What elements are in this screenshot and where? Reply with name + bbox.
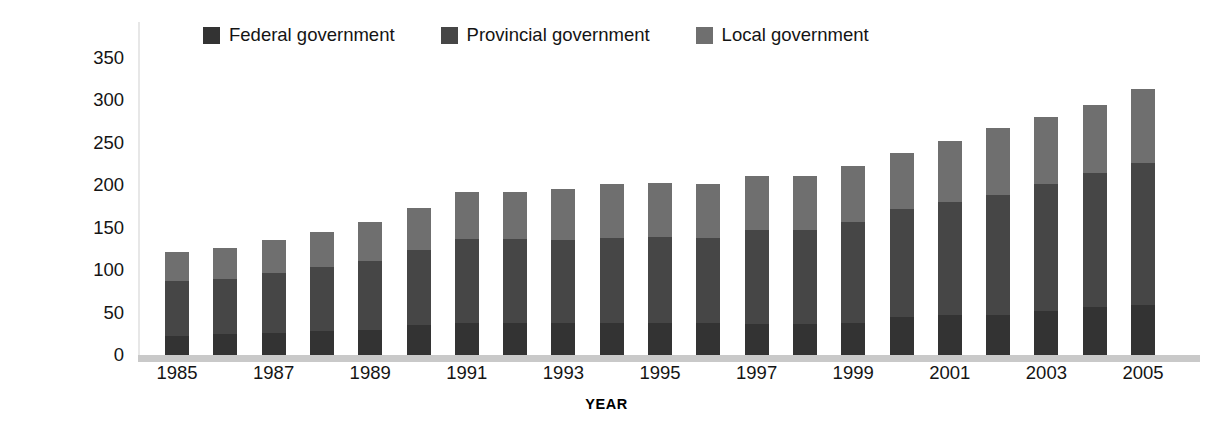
bar-segment-provincial xyxy=(745,230,769,324)
bar-segment-local xyxy=(358,222,382,261)
bar-1985 xyxy=(165,251,189,355)
bar-segment-federal xyxy=(358,330,382,355)
y-axis-tick-labels: 050100150200250300350 xyxy=(0,0,132,380)
bar-segment-federal xyxy=(165,336,189,355)
x-axis-line xyxy=(138,355,1200,362)
bar-2003 xyxy=(1034,117,1058,355)
x-tick-2003: 2003 xyxy=(1026,362,1067,384)
x-tick-1993: 1993 xyxy=(543,362,584,384)
bar-1998 xyxy=(793,176,817,355)
bar-2004 xyxy=(1083,105,1107,355)
bar-segment-provincial xyxy=(1131,163,1155,305)
bar-segment-federal xyxy=(262,333,286,355)
bar-segment-provincial xyxy=(648,237,672,323)
bar-segment-local xyxy=(745,176,769,230)
bar-segment-federal xyxy=(890,317,914,355)
bar-segment-provincial xyxy=(1034,184,1058,310)
bar-segment-local xyxy=(1034,117,1058,185)
bar-1986 xyxy=(213,248,237,355)
plot-area xyxy=(138,22,1200,356)
bar-1992 xyxy=(503,192,527,355)
bar-segment-federal xyxy=(1083,307,1107,355)
bar-segment-provincial xyxy=(310,267,334,331)
bar-2005 xyxy=(1131,89,1155,355)
bar-segment-local xyxy=(1131,89,1155,164)
bar-segment-provincial xyxy=(600,238,624,323)
x-axis-title: YEAR xyxy=(0,396,1213,412)
bar-segment-federal xyxy=(503,323,527,355)
x-tick-2001: 2001 xyxy=(929,362,970,384)
bar-segment-local xyxy=(213,248,237,279)
bar-segment-provincial xyxy=(551,240,575,322)
bar-segment-provincial xyxy=(165,281,189,336)
y-tick-250: 250 xyxy=(93,132,124,154)
bar-segment-provincial xyxy=(213,279,237,334)
bar-segment-provincial xyxy=(455,239,479,323)
bar-segment-provincial xyxy=(841,222,865,323)
bar-segment-provincial xyxy=(358,261,382,331)
bar-1991 xyxy=(455,192,479,355)
bar-segment-local xyxy=(262,240,286,273)
x-tick-1991: 1991 xyxy=(446,362,487,384)
bar-2000 xyxy=(890,153,914,355)
x-axis-tick-labels: 1985198719891991199319951997199920012003… xyxy=(138,362,1200,388)
bar-1996 xyxy=(696,184,720,355)
bar-segment-provincial xyxy=(938,202,962,315)
bar-segment-local xyxy=(793,176,817,230)
bar-segment-local xyxy=(165,252,189,282)
bar-1993 xyxy=(551,189,575,355)
y-tick-100: 100 xyxy=(93,259,124,281)
bar-segment-federal xyxy=(1131,305,1155,355)
chart-figure: CURRENT EXPENDITURE ON GOODS AND SERVICE… xyxy=(0,0,1213,448)
bar-segment-local xyxy=(696,184,720,237)
bar-segment-federal xyxy=(407,325,431,355)
bar-segment-federal xyxy=(696,323,720,355)
bar-segment-federal xyxy=(551,323,575,355)
bar-segment-provincial xyxy=(407,250,431,326)
x-tick-2005: 2005 xyxy=(1122,362,1163,384)
y-tick-200: 200 xyxy=(93,174,124,196)
bar-1997 xyxy=(745,176,769,355)
bar-segment-local xyxy=(841,166,865,222)
bar-segment-provincial xyxy=(503,239,527,323)
bar-1989 xyxy=(358,222,382,355)
bar-2002 xyxy=(986,128,1010,355)
bar-segment-provincial xyxy=(793,230,817,323)
x-tick-1987: 1987 xyxy=(253,362,294,384)
bar-segment-federal xyxy=(938,315,962,355)
bar-segment-federal xyxy=(600,323,624,355)
bar-segment-provincial xyxy=(262,273,286,333)
bar-segment-local xyxy=(890,153,914,209)
bar-segment-federal xyxy=(310,331,334,355)
bar-segment-federal xyxy=(213,334,237,355)
y-tick-300: 300 xyxy=(93,89,124,111)
bar-1994 xyxy=(600,184,624,355)
x-tick-1985: 1985 xyxy=(156,362,197,384)
bar-1990 xyxy=(407,208,431,355)
bar-segment-federal xyxy=(1034,311,1058,355)
bar-segment-provincial xyxy=(696,238,720,323)
x-tick-1997: 1997 xyxy=(736,362,777,384)
bar-segment-federal xyxy=(793,324,817,355)
bar-segment-local xyxy=(648,183,672,237)
bar-segment-federal xyxy=(648,323,672,355)
bar-segment-local xyxy=(986,128,1010,194)
bar-segment-provincial xyxy=(986,195,1010,315)
bar-segment-local xyxy=(503,192,527,239)
bar-segment-provincial xyxy=(890,209,914,317)
bar-series-group xyxy=(138,22,1200,356)
bar-segment-federal xyxy=(455,323,479,355)
y-tick-350: 350 xyxy=(93,47,124,69)
x-tick-1989: 1989 xyxy=(350,362,391,384)
bar-1999 xyxy=(841,166,865,355)
bar-1988 xyxy=(310,232,334,355)
bar-segment-local xyxy=(938,141,962,202)
y-tick-0: 0 xyxy=(114,344,124,366)
bar-segment-federal xyxy=(841,323,865,355)
y-tick-150: 150 xyxy=(93,217,124,239)
bar-segment-local xyxy=(600,184,624,238)
bar-segment-local xyxy=(407,208,431,250)
bar-1995 xyxy=(648,183,672,355)
x-tick-1999: 1999 xyxy=(833,362,874,384)
x-tick-1995: 1995 xyxy=(639,362,680,384)
